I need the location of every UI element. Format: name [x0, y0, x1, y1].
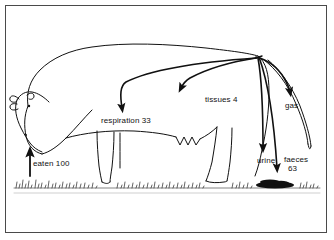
arrow-convergence-stub [256, 56, 262, 58]
label-tissues: tissues 4 [205, 95, 237, 105]
label-respiration: respiration 33 [101, 116, 151, 126]
cow-energy-budget-illustration [0, 0, 334, 240]
arrow-urine [258, 58, 263, 148]
label-urine: urine [257, 156, 275, 166]
figure-root: eaten 100 respiration 33 tissues 4 gas u… [0, 0, 334, 240]
flow-arrows [30, 56, 290, 176]
label-faeces-value: 63 [288, 164, 297, 174]
faeces-pile [256, 180, 294, 189]
arrow-tissues [181, 58, 256, 88]
label-eaten: eaten 100 [33, 159, 70, 169]
label-gas: gas [285, 101, 298, 111]
